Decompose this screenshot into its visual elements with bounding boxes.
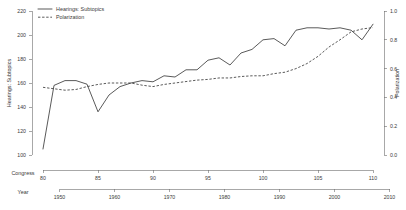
x-axis-year-title: Year (18, 189, 29, 195)
series-group (43, 24, 373, 149)
x-axis-year-tick-label: 1950 (54, 194, 66, 200)
labels-group: 100120140160180200220Hearings: Subtopics… (6, 8, 400, 200)
legend-label: Hearings: Subtopics (56, 6, 105, 12)
chart-canvas: 100120140160180200220Hearings: Subtopics… (0, 0, 406, 210)
legend-label: Polarization (56, 14, 84, 20)
y-axis-left-tick-label: 120 (17, 128, 26, 134)
x-axis-year-tick-label: 1960 (109, 194, 121, 200)
y-axis-right-title: Polarization (394, 69, 400, 97)
y-axis-right-tick-label: 0.0 (390, 152, 397, 158)
x-axis-congress-tick-label: 100 (259, 175, 268, 181)
axes-group (29, 11, 390, 192)
y-axis-left-tick-label: 220 (17, 8, 26, 14)
chart-figure: 100120140160180200220Hearings: Subtopics… (0, 0, 406, 210)
x-axis-year-tick-label: 2010 (384, 194, 396, 200)
y-axis-left-title: Hearings: Subtopics (6, 59, 12, 108)
x-axis-congress-tick-label: 80 (40, 175, 46, 181)
y-axis-left-tick-label: 100 (17, 152, 26, 158)
x-axis-congress-tick-label: 95 (205, 175, 211, 181)
y-axis-left-tick-label: 200 (17, 32, 26, 38)
x-axis-congress-tick-label: 90 (150, 175, 156, 181)
y-axis-right-tick-label: 1.0 (390, 8, 397, 14)
x-axis-congress-tick-label: 110 (369, 175, 377, 181)
y-axis-right-tick-label: 0.8 (390, 37, 397, 43)
legend-group: Hearings: SubtopicsPolarization (38, 6, 105, 20)
x-axis-year-tick-label: 1970 (164, 194, 176, 200)
x-axis-congress-title: Congress (11, 170, 34, 176)
x-axis-year-tick-label: 1990 (274, 194, 286, 200)
y-axis-left-tick-label: 180 (17, 56, 26, 62)
y-axis-right-tick-label: 0.2 (390, 123, 397, 129)
x-axis-year-tick-label: 2000 (329, 194, 341, 200)
x-axis-year-tick-label: 1980 (219, 194, 231, 200)
x-axis-congress-tick-label: 105 (314, 175, 323, 181)
y-axis-left-tick-label: 140 (17, 104, 26, 110)
series-line-polarization (43, 28, 373, 91)
x-axis-congress-tick-label: 85 (95, 175, 101, 181)
series-line-hearings-subtopics (43, 24, 373, 149)
y-axis-left-tick-label: 160 (17, 80, 26, 86)
